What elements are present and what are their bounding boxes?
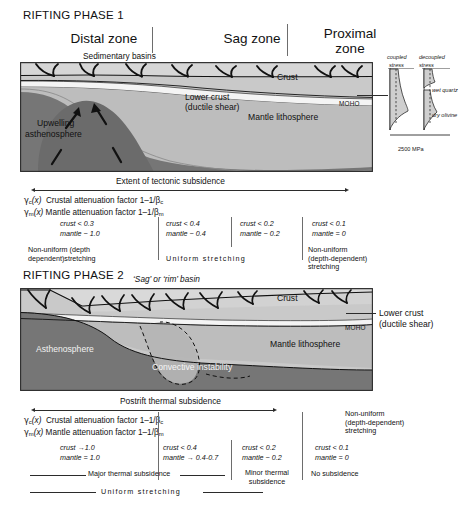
- label-mantle-lithosphere-phase2: Mantle lithosphere: [270, 339, 340, 349]
- stress-scale-label: 2500 MPa: [398, 146, 424, 152]
- zone-label-proximal-line1: Proximal: [305, 26, 395, 41]
- label-crust-phase1: Crust: [277, 72, 298, 82]
- phase1-uniform-stretching: Uniform stretching: [166, 254, 246, 263]
- gamma-m-arg: (x): [34, 208, 44, 217]
- phase1-col4-crust: crust < 0.1: [312, 219, 346, 229]
- phase1-extent-arrow-right: [345, 188, 349, 192]
- phase1-col-divider-3: [302, 217, 303, 260]
- phase1-crustal-factor-text: Crustal attenuation factor 1–1/β: [46, 196, 160, 205]
- zone-divider-sag-proximal: [287, 24, 288, 56]
- phase2-col2-crust: crust < 0.4: [163, 443, 197, 453]
- phase2-mantle-beta-sub: m: [159, 431, 164, 437]
- label-moho-phase1: MOHO: [339, 100, 360, 107]
- phase2-col-divider-2: [231, 440, 232, 480]
- zone-divider-distal-sag: [152, 27, 153, 53]
- major-thermal-rule-left: [30, 475, 86, 476]
- phase1-col-divider-2: [231, 217, 232, 247]
- zone-label-distal: Distal zone: [39, 31, 169, 46]
- label-upwelling-line1: Upwelling: [37, 118, 74, 128]
- phase2-right-note-line3: stretching: [345, 427, 404, 436]
- phase2-col4-mantle: mantle = 0: [315, 453, 349, 463]
- gamma-m-arg-2: (x): [34, 428, 44, 437]
- uniform-stretching-rule-left: [30, 492, 96, 493]
- phase2-crustal-beta-sub: c: [160, 419, 163, 425]
- phase2-no-subsidence: No subsidence: [311, 470, 359, 479]
- phase1-mantle-beta-sub: m: [159, 211, 164, 217]
- stress-coupled-line1: coupled: [387, 54, 407, 60]
- label-lower-crust-phase2-line2: (ductile shear): [379, 319, 433, 329]
- phase2-col3-crust: crust < 0.2: [242, 443, 276, 453]
- label-crust-phase2: Crust: [277, 293, 298, 303]
- phase1-extent-label: Extent of tectonic subsidence: [116, 176, 225, 186]
- stress-label-wet-quartz: wet quartz: [432, 87, 458, 93]
- phase2-uniform-stretching: Uniform stretching: [101, 487, 181, 496]
- label-lower-crust-phase1-line2: (ductile shear): [185, 102, 239, 112]
- phase2-minor-thermal-subsidence: Minor thermal subsidence: [237, 469, 297, 486]
- major-thermal-rule-right: [180, 475, 225, 476]
- phase1-col4-desc: Non-uniform (depth-dependent) stretching: [308, 246, 367, 272]
- phase2-extent-arrow-left: [31, 408, 35, 412]
- phase2-col1-crust: crust →1.0: [60, 443, 95, 453]
- label-convective-instability: Convective instability: [152, 362, 232, 372]
- phase1-title: RIFTING PHASE 1: [23, 9, 124, 21]
- label-moho-phase2: MOHO: [345, 324, 366, 331]
- lower-crust-leader-line-phase2: [346, 313, 376, 314]
- phase1-col3-crust: crust < 0.2: [240, 219, 274, 229]
- phase1-crustal-beta-sub: c: [160, 199, 163, 205]
- phase2-col4-crust: crust < 0.1: [315, 443, 349, 453]
- phase2-minor-thermal-line2: subsidence: [237, 478, 297, 487]
- gamma-c-arg-2: (x): [32, 416, 42, 425]
- phase1-col4-desc-line3: stretching: [308, 263, 367, 272]
- phase2-extent-label: Postrift thermal subsidence: [120, 396, 221, 406]
- figure-root: RIFTING PHASE 1 Distal zone Sag zone Pro…: [0, 0, 463, 519]
- phase2-col2-mantle: mantle → 0.4-0.7: [163, 453, 218, 463]
- zone-label-proximal-line2: zone: [305, 41, 395, 56]
- phase1-extent-arrow-left: [31, 188, 35, 192]
- phase2-col-divider-3: [302, 412, 303, 480]
- uniform-stretching-rule-right: [203, 492, 263, 493]
- stress-decoupled-line1: decoupled: [419, 54, 445, 60]
- phase1-col3-mantle: mantle ~ 0.2: [240, 229, 280, 239]
- zone-label-proximal: Proximal zone: [305, 26, 395, 56]
- stress-profile-graphs: [384, 68, 460, 140]
- phase1-crustal-factor: γc(x) Crustal attenuation factor 1–1/βc: [24, 195, 163, 205]
- phase2-right-note: Non-uniform (depth-dependent) stretching: [345, 410, 404, 436]
- phase1-col2-mantle: mantle ~ 0.4: [166, 229, 206, 239]
- phase1-col1-desc-line2: dependent)stretching: [28, 255, 96, 264]
- phase1-mantle-factor-text: Mantle attenuation factor 1–1/β: [46, 208, 159, 217]
- phase1-mantle-factor: γm(x) Mantle attenuation factor 1–1/βm: [24, 207, 164, 217]
- phase2-title: RIFTING PHASE 2: [23, 269, 124, 281]
- phase2-crustal-factor-text: Crustal attenuation factor 1–1/β: [46, 416, 160, 425]
- phase1-col4-mantle: mantle = 0: [312, 229, 346, 239]
- phase1-cross-section: [20, 62, 373, 172]
- stress-label-dry-olivine: dry olivine: [432, 112, 457, 118]
- label-sedimentary-basins: Sedimentary basins: [83, 51, 156, 61]
- label-mantle-lithosphere-phase1: Mantle lithosphere: [248, 112, 318, 122]
- label-lower-crust-phase2-line1: Lower crust: [379, 308, 423, 318]
- phase2-mantle-factor-text: Mantle attenuation factor 1–1/β: [46, 428, 159, 437]
- phase2-extent-line: [35, 410, 273, 411]
- phase1-col1-mantle: mantle ~ 1.0: [60, 229, 100, 239]
- phase1-col2-crust: crust < 0.4: [166, 219, 200, 229]
- phase1-col1-crust: crust < 0.3: [60, 219, 94, 229]
- phase2-mantle-factor: γm(x) Mantle attenuation factor 1–1/βm: [24, 427, 164, 437]
- phase2-major-thermal-subsidence: Major thermal subsidence: [88, 470, 170, 479]
- phase1-extent-line: [35, 190, 345, 191]
- phase2-col3-mantle: mantle ~ 0.2: [242, 453, 282, 463]
- phase2-crustal-factor: γc(x) Crustal attenuation factor 1–1/βc: [24, 415, 163, 425]
- zone-label-sag: Sag zone: [187, 31, 317, 46]
- gamma-c-arg: (x): [32, 196, 42, 205]
- label-upwelling-line2: asthenosphere: [25, 129, 82, 139]
- label-sag-rim-basin: ‘Sag’ or ‘rim’ basin: [133, 274, 200, 284]
- phase1-col-divider-1: [158, 217, 159, 260]
- phase2-col1-mantle: mantle = 1.0: [60, 453, 100, 463]
- label-asthenosphere: Asthenosphere: [36, 344, 94, 354]
- phase2-extent-arrow-right: [273, 408, 277, 412]
- phase1-col1-desc: Non-uniform (depth dependent)stretching: [28, 246, 96, 263]
- label-lower-crust-phase1-line1: Lower crust: [185, 92, 229, 102]
